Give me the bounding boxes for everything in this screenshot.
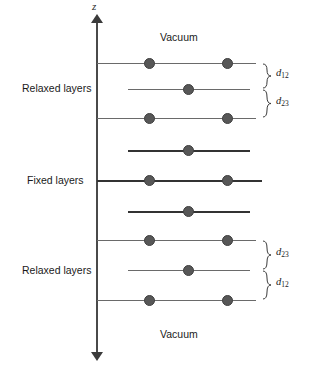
atom	[144, 235, 155, 246]
brace-d23-top	[262, 89, 272, 118]
atom	[222, 295, 233, 306]
atom	[183, 145, 194, 156]
brace-d12-bottom	[262, 270, 272, 300]
atom	[183, 84, 194, 95]
atom	[222, 175, 233, 186]
spacing-label-d12-bottom-sub: 12	[281, 280, 289, 289]
relaxed-layers-label-top: Relaxed layers	[22, 82, 91, 94]
relaxed-layers-label-bottom: Relaxed layers	[22, 264, 91, 276]
slab-geometry-diagram: z Vacuum Vacuum Relaxed layers Fixed lay…	[0, 0, 331, 367]
spacing-label-d12-bottom: d12	[276, 276, 289, 287]
atom	[144, 58, 155, 69]
spacing-label-d23-bottom-sub: 23	[281, 250, 289, 259]
z-axis-line	[96, 20, 98, 355]
atom	[144, 175, 155, 186]
spacing-label-d23-top: d23	[276, 95, 289, 106]
atom	[183, 206, 194, 217]
spacing-label-d12-top-sub: 12	[281, 71, 289, 80]
atom	[222, 235, 233, 246]
z-axis-label: z	[92, 0, 96, 12]
fixed-layers-label: Fixed layers	[27, 174, 84, 186]
spacing-label-d23-top-sub: 23	[281, 99, 289, 108]
brace-d23-bottom	[262, 240, 272, 270]
z-axis-up-arrow-icon	[91, 14, 103, 23]
atom	[222, 58, 233, 69]
layer-line	[97, 180, 262, 182]
vacuum-label-bottom: Vacuum	[160, 328, 198, 340]
atom	[222, 113, 233, 124]
z-axis-down-arrow-icon	[91, 352, 103, 361]
atom	[183, 265, 194, 276]
vacuum-label-top: Vacuum	[160, 31, 198, 43]
atom	[144, 295, 155, 306]
brace-d12-top	[262, 63, 272, 89]
spacing-label-d12-top: d12	[276, 67, 289, 78]
atom	[144, 113, 155, 124]
spacing-label-d23-bottom: d23	[276, 246, 289, 257]
